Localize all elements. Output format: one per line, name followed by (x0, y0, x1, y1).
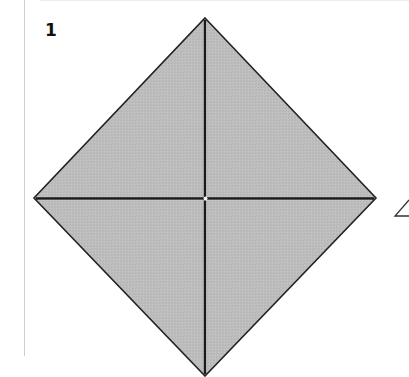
crease-intersection (204, 197, 208, 201)
angle-arrow-icon (395, 200, 409, 216)
origami-diagram (0, 0, 409, 377)
